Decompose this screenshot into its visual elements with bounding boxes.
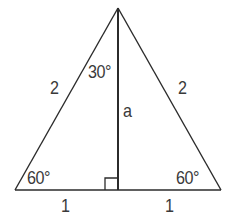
altitude-label: a — [123, 101, 132, 120]
right-side-length-label: 2 — [178, 78, 187, 97]
left-base-half-label: 1 — [61, 196, 70, 215]
triangle-diagram: 30° 2 2 a 60° 60° 1 1 — [0, 0, 232, 219]
right-base-half-label: 1 — [165, 196, 174, 215]
right-side-line — [118, 8, 221, 190]
apex-angle-label: 30° — [88, 62, 111, 81]
left-side-line — [15, 8, 118, 190]
left-base-angle-label: 60° — [27, 168, 50, 187]
right-base-angle-label: 60° — [176, 168, 199, 187]
right-angle-marker — [105, 178, 118, 190]
left-side-length-label: 2 — [50, 78, 59, 97]
